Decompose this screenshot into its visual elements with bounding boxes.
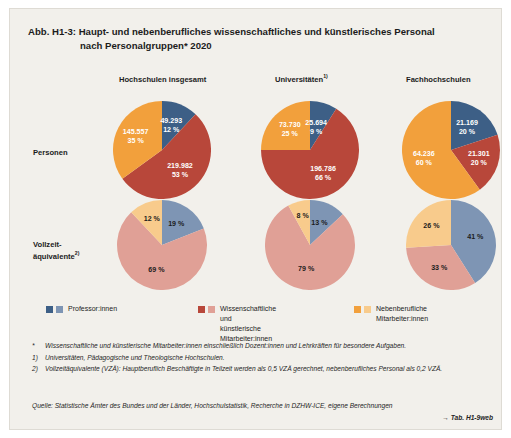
column-header-footnote-marker: 1) <box>323 73 328 79</box>
pie-slice <box>261 101 310 150</box>
legend-swatch-personen <box>46 306 53 313</box>
figure-title: Abb. H1-3: Haupt- und nebenberufliches w… <box>28 25 483 53</box>
row-label-footnote-marker: 2) <box>75 250 80 256</box>
row-label-text-2: äquivalente <box>33 252 75 261</box>
footnote: 2)Vollzeitäquivalente (VZÄ): Hauptberufl… <box>32 364 487 375</box>
pie-slice <box>406 200 451 248</box>
legend-label: Nebenberufliche Mitarbeiter:innen <box>376 304 428 324</box>
legend-swatch-vollzeitaequivalente <box>364 306 371 313</box>
row-label-text: Vollzeit- <box>33 240 62 249</box>
row-label-vollzeitaequivalente: Vollzeit- äquivalente2) <box>33 239 79 262</box>
figure-number: Abb. H1-3: <box>28 26 76 37</box>
legend: Professor:innenWissenschaftliche und kün… <box>46 305 496 333</box>
legend-swatch-vollzeitaequivalente <box>208 306 215 313</box>
row-label-personen: Personen <box>33 147 68 158</box>
column-header-label: Hochschulen insgesamt <box>119 75 206 84</box>
legend-swatch-personen <box>198 306 205 313</box>
column-header-universitaeten: Universitäten1) <box>275 73 328 84</box>
footnote-text: Vollzeitäquivalente (VZÄ): Hauptberuflic… <box>45 365 442 372</box>
footnote-text: Wissenschaftliche und künstlerische Mita… <box>45 342 406 349</box>
footnote-marker: 2) <box>32 364 38 375</box>
footnotes: *Wissenschaftliche und künstlerische Mit… <box>32 341 487 376</box>
footnote-marker: * <box>32 341 35 352</box>
source-note: Quelle: Statistische Ämter des Bundes un… <box>32 401 487 412</box>
legend-label: Wissenschaftliche und künstlerische Mita… <box>220 304 276 345</box>
footnote: 1)Universitäten, Pädagogische und Theolo… <box>32 353 487 364</box>
footnote: *Wissenschaftliche und künstlerische Mit… <box>32 341 487 352</box>
pie-chart <box>406 200 496 290</box>
figure-panel: Abb. H1-3: Haupt- und nebenberufliches w… <box>9 8 502 430</box>
pie-chart <box>113 101 211 199</box>
pie-chart <box>402 101 500 199</box>
column-header-hochschulen-insgesamt: Hochschulen insgesamt <box>119 73 206 84</box>
column-header-label: Universitäten <box>275 75 323 84</box>
pie-chart <box>117 200 207 290</box>
figure-title-line1: Haupt- und nebenberufliches wissenschaft… <box>79 26 435 37</box>
legend-swatch-personen <box>354 306 361 313</box>
column-header-label: Fachhochschulen <box>406 75 471 84</box>
row-label-text: Personen <box>33 148 68 157</box>
pie-chart <box>265 200 355 290</box>
legend-swatch-vollzeitaequivalente <box>56 306 63 313</box>
pie-chart <box>261 101 359 199</box>
footnote-marker: 1) <box>32 353 38 364</box>
footnote-text: Universitäten, Pädagogische und Theologi… <box>45 354 225 361</box>
column-header-fachhochschulen: Fachhochschulen <box>406 73 471 84</box>
legend-label: Professor:innen <box>68 304 117 314</box>
figure-title-line2: nach Personalgruppen* 2020 <box>80 39 483 53</box>
table-reference-link[interactable]: → Tab. H1-9web <box>442 414 493 421</box>
